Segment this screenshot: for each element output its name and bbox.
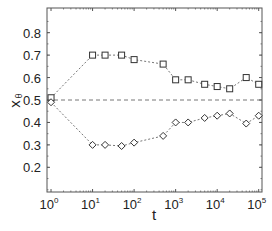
y-tick-label: 0.7 bbox=[23, 48, 41, 63]
y-tick-label: 0.5 bbox=[23, 93, 41, 108]
svg-text:x: x bbox=[6, 100, 23, 108]
y-tick-label: 0.6 bbox=[23, 71, 41, 86]
square-marker bbox=[243, 75, 249, 81]
x-axis-label: t bbox=[152, 206, 157, 223]
square-marker bbox=[90, 52, 96, 58]
square-marker bbox=[202, 81, 208, 87]
x-tick-label: 101 bbox=[81, 196, 100, 212]
square-marker bbox=[102, 52, 108, 58]
diamond-marker bbox=[243, 120, 250, 127]
x-tick-label: 102 bbox=[123, 196, 142, 212]
diamond-marker bbox=[118, 143, 125, 150]
svg-text:θ: θ bbox=[14, 93, 24, 98]
x-tick-label: 100 bbox=[40, 196, 59, 212]
square-marker bbox=[131, 57, 137, 63]
square-marker bbox=[173, 77, 179, 83]
chart: 0.20.30.40.50.60.70.8 100101102103104105… bbox=[0, 0, 272, 231]
diamond-marker bbox=[160, 132, 167, 139]
diamond-marker bbox=[214, 112, 221, 119]
square-marker bbox=[227, 86, 233, 92]
x-tick-label: 105 bbox=[247, 196, 266, 212]
series-square bbox=[48, 52, 262, 101]
y-tick-label: 0.3 bbox=[23, 138, 41, 153]
y-tick-label: 0.8 bbox=[23, 26, 41, 41]
diamond-marker bbox=[172, 119, 179, 126]
x-tick-label: 104 bbox=[206, 196, 225, 212]
square-marker bbox=[160, 61, 166, 67]
diamond-marker bbox=[131, 139, 138, 146]
square-marker bbox=[185, 77, 191, 83]
series-diamond bbox=[48, 99, 263, 150]
square-marker bbox=[214, 84, 220, 90]
x-tick-label: 103 bbox=[164, 196, 183, 212]
square-marker bbox=[119, 52, 125, 58]
diamond-marker bbox=[255, 112, 262, 119]
diamond-marker bbox=[102, 141, 109, 148]
diamond-marker bbox=[226, 110, 233, 117]
y-tick-label: 0.2 bbox=[23, 160, 41, 175]
x-axis-ticks: 100101102103104105 bbox=[40, 8, 267, 212]
y-axis-label: x θ bbox=[6, 93, 24, 107]
y-tick-label: 0.4 bbox=[23, 115, 41, 130]
series-layer bbox=[48, 52, 263, 149]
square-marker bbox=[256, 81, 262, 87]
diamond-marker bbox=[185, 119, 192, 126]
diamond-marker bbox=[201, 114, 208, 121]
y-axis-ticks: 0.20.30.40.50.60.70.8 bbox=[23, 21, 262, 189]
